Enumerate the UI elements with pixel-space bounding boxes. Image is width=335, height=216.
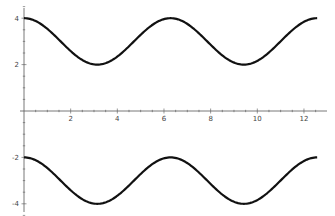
y-tick-label: 4: [15, 15, 20, 23]
y-tick-label: 2: [15, 61, 19, 69]
x-tick-label: 12: [299, 115, 308, 123]
x-tick-label: 6: [162, 115, 167, 123]
y-tick-label: -2: [12, 154, 19, 162]
x-tick-label: 4: [115, 115, 120, 123]
upper-curve: [24, 18, 317, 64]
x-tick-label: 2: [68, 115, 72, 123]
chart-plot: 24681012 -4-224: [0, 0, 335, 216]
x-tick-label: 8: [208, 115, 212, 123]
x-tick-label: 10: [253, 115, 262, 123]
lower-curve: [24, 157, 317, 203]
y-tick-label: -4: [12, 200, 20, 208]
